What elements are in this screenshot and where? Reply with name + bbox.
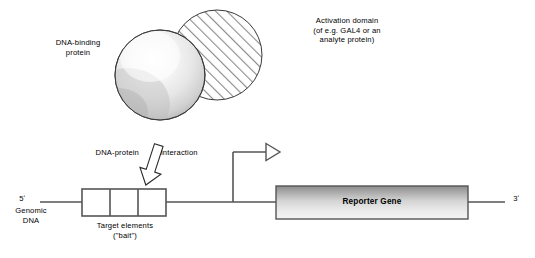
label-three-prime-end: 3ʹ: [505, 194, 527, 204]
target-elements-box-outline: [82, 189, 166, 216]
label-target-elements: Target elements ("bait"): [78, 221, 172, 240]
label-interaction: interaction: [161, 148, 215, 158]
label-reporter-gene: Reporter Gene: [276, 197, 468, 207]
diagram-canvas: DNA-binding protein Activation domain (o…: [0, 0, 535, 258]
target-elements-box: [82, 189, 166, 216]
sphere-highlight: [120, 30, 180, 82]
label-dna-protein: DNA-protein: [77, 148, 139, 158]
transcription-start-arrow: [233, 144, 280, 203]
label-genomic-dna: Genomic DNA: [0, 206, 62, 225]
label-five-prime-end: 5ʹ: [10, 194, 34, 204]
sphere-shadow-inner: [88, 88, 148, 136]
label-activation-domain: Activation domain (of e.g. GAL4 or an an…: [292, 16, 402, 45]
label-dna-binding-protein: DNA-binding protein: [34, 38, 122, 57]
transcription-arrowhead-icon: [266, 144, 280, 161]
